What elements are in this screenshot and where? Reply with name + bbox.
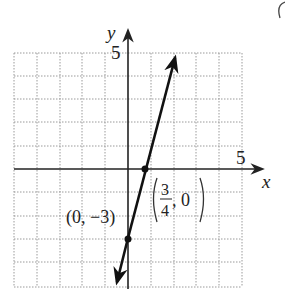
decorative-arc [279,2,285,18]
x-intercept-denominator: 4 [161,202,169,219]
y-axis-label: y [105,22,116,43]
x-axis-label: x [261,171,271,192]
y-intercept-point [125,236,132,243]
x-intercept-point [142,166,149,173]
graph: y x 5 5 (0, −3) 3 4 , 0 [0,0,285,291]
x-intercept-numerator: 3 [161,181,169,198]
plotted-line-lower [117,238,128,282]
x-intercept-rest: , 0 [172,190,190,210]
x-tick-5: 5 [236,147,246,168]
y-tick-5: 5 [111,42,121,63]
y-intercept-label: (0, −3) [66,207,115,228]
